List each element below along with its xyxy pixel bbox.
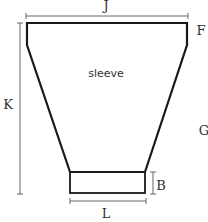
- sleeve-schematic: sleeve J F K G B L: [0, 0, 208, 222]
- sleeve-label: sleeve: [88, 67, 124, 80]
- dimension-b: [150, 172, 156, 194]
- cuff-outline: [70, 172, 145, 193]
- label-b: B: [156, 178, 166, 193]
- label-k: K: [3, 97, 13, 112]
- label-l: L: [102, 206, 111, 221]
- dimension-j: [26, 13, 188, 19]
- dimension-k: [17, 23, 23, 194]
- schematic-canvas: sleeve J F K G B L: [0, 0, 208, 222]
- label-f: F: [196, 23, 205, 38]
- label-g: G: [199, 123, 208, 138]
- dimension-l: [70, 198, 146, 204]
- label-j: J: [101, 0, 108, 13]
- sleeve-outline: [27, 23, 187, 172]
